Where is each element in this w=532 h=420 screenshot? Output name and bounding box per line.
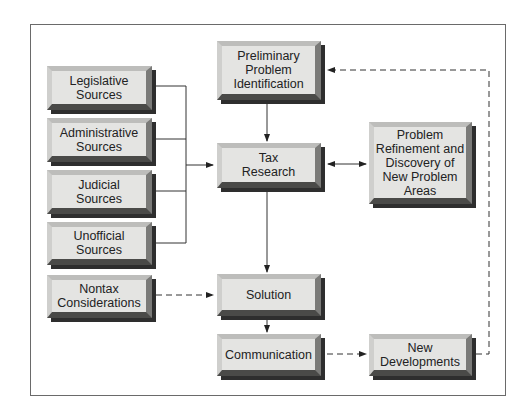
node-label: Preliminary Problem Identification (233, 49, 303, 91)
node-label: Judicial Sources (76, 178, 122, 206)
nontax-considerations-node: Nontax Considerations (47, 275, 152, 318)
solution-node: Solution (217, 274, 321, 316)
new-developments-node: New Developments (369, 334, 472, 376)
node-label: Unofficial Sources (73, 229, 124, 257)
node-label: Solution (246, 288, 291, 302)
node-label: Legislative Sources (69, 74, 128, 102)
legislative-sources-node: Legislative Sources (47, 66, 152, 110)
unofficial-sources-node: Unofficial Sources (47, 222, 152, 265)
node-label: Administrative Sources (60, 126, 139, 154)
tax-research-node: Tax Research (217, 143, 321, 188)
node-label: Nontax Considerations (57, 282, 140, 310)
administrative-sources-node: Administrative Sources (47, 118, 152, 162)
communication-node: Communication (217, 334, 321, 376)
node-label: New Developments (380, 341, 460, 369)
problem-refinement-node: Problem Refinement and Discovery of New … (369, 122, 472, 204)
judicial-sources-node: Judicial Sources (47, 170, 152, 214)
node-label: Communication (225, 348, 312, 362)
node-label: Problem Refinement and Discovery of New … (376, 128, 464, 198)
preliminary-problem-identification-node: Preliminary Problem Identification (217, 41, 321, 100)
node-label: Tax Research (242, 151, 296, 179)
